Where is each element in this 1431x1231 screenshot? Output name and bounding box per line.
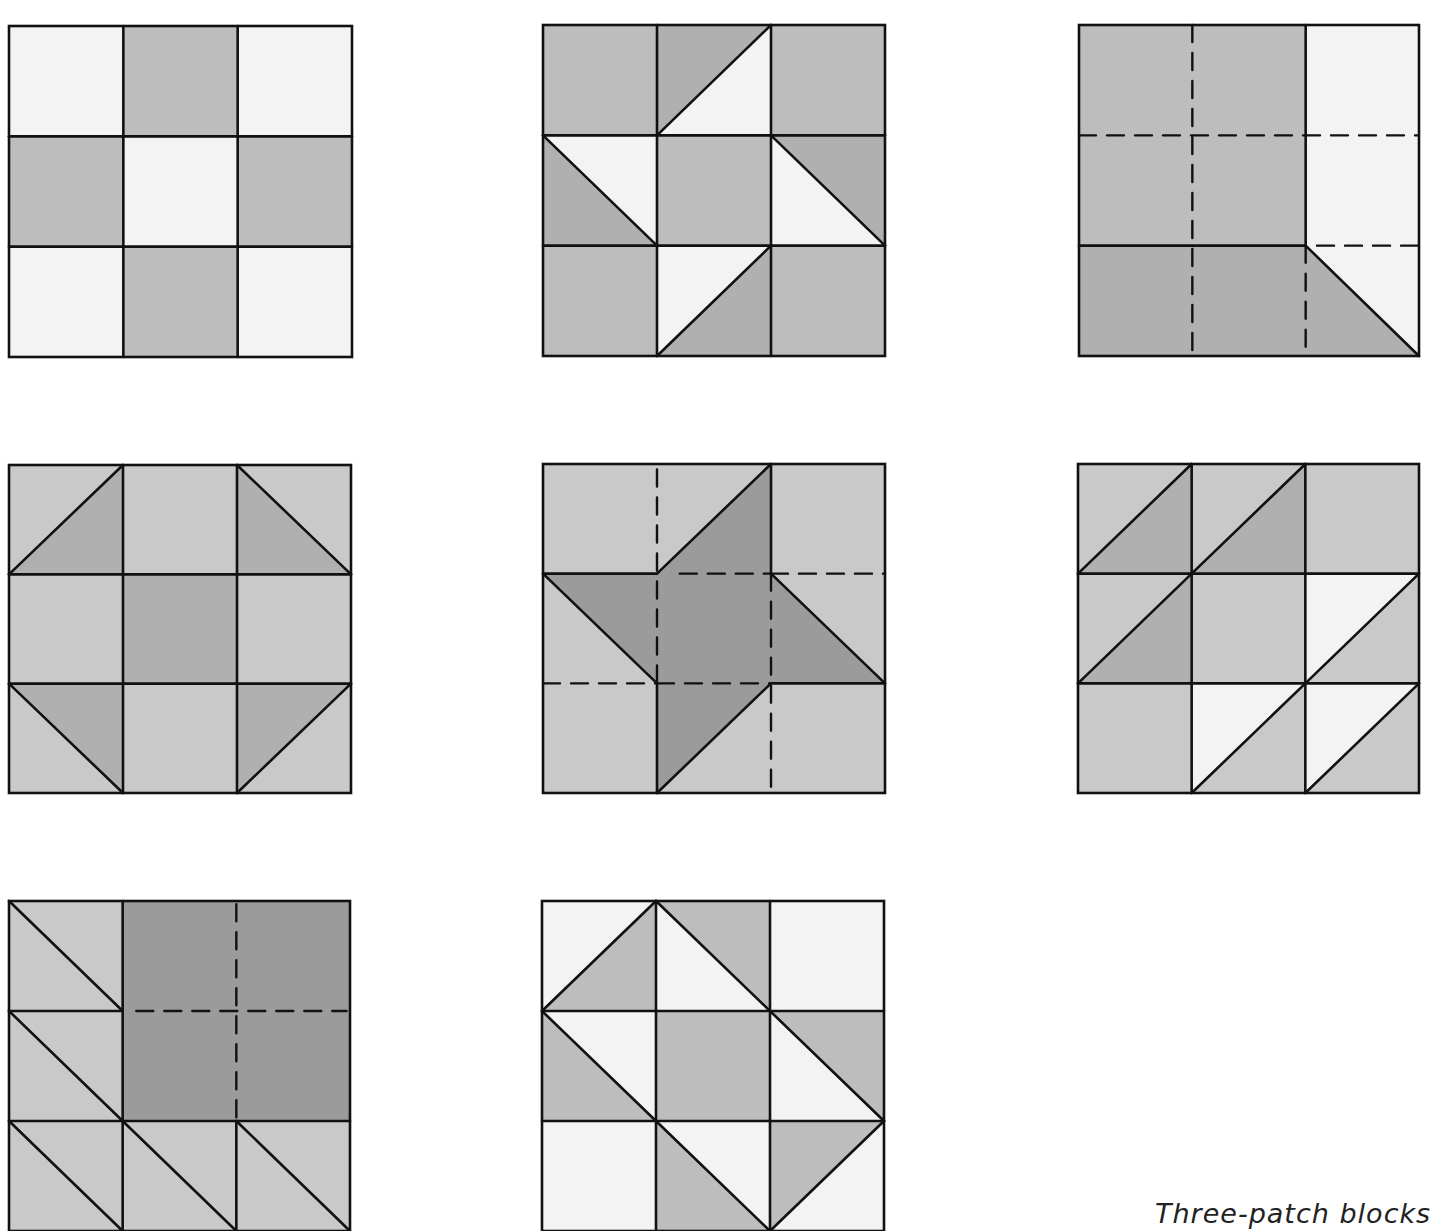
patch [9,136,123,246]
patch [238,26,352,136]
patch [1078,464,1419,793]
patch [123,26,237,136]
quilt-block-7 [9,901,350,1231]
patch [123,136,237,246]
quilt-block-6 [1078,464,1419,793]
quilt-block-1 [9,26,352,357]
patch [123,247,237,357]
caption: Three-patch blocks [1155,1198,1431,1229]
patch [656,1011,770,1121]
patch [238,136,352,246]
patch [9,26,123,136]
quilt-block-2 [543,25,885,356]
quilt-block-5 [543,464,885,793]
patch [9,247,123,357]
patch [123,574,237,683]
quilt-block-4 [9,465,351,793]
quilt-block-3 [1079,25,1419,356]
patch [238,247,352,357]
quilt-block-8 [542,901,884,1231]
